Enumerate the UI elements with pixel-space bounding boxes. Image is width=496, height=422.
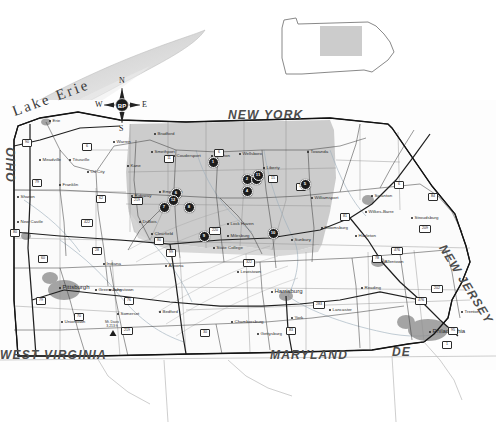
map-figure: BP Lake Erie N S E W NEW YORKOHIOWEST VI… (0, 0, 496, 422)
site-marker-10[interactable]: 10 (268, 228, 279, 239)
map-canvas: BP (0, 0, 496, 422)
pennsylvania-locator-inset (272, 8, 400, 78)
inset-study-area-highlight (320, 26, 362, 56)
site-marker-9[interactable]: 9 (199, 231, 210, 242)
site-marker-1[interactable]: 1 (208, 157, 219, 168)
site-marker-12[interactable]: 12 (168, 195, 179, 206)
site-marker-11[interactable]: 11 (253, 170, 264, 181)
svg-text:BP: BP (118, 103, 126, 109)
site-marker-5[interactable]: 5 (300, 179, 311, 190)
site-marker-8[interactable]: 8 (184, 202, 195, 213)
site-marker-4[interactable]: 4 (242, 186, 253, 197)
